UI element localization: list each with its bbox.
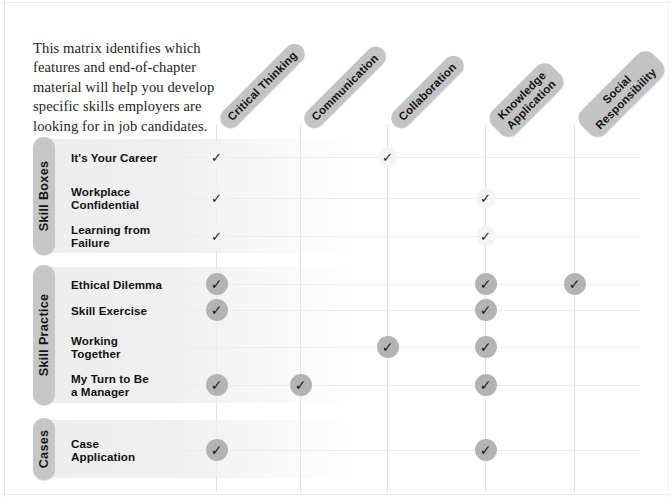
column-header-collaboration[interactable]: Collaboration [387,52,468,133]
section-pill-skill-boxes[interactable]: Skill Boxes [33,137,55,255]
checkmark-icon: ✓ [378,147,398,167]
section-pill-label: Skill Boxes [37,161,51,232]
row-gridline-working-together [163,347,640,348]
frame-top-border [0,2,672,3]
checkmark-icon: ✓ [476,188,496,208]
frame-left-border [4,0,5,497]
column-header-social-responsibility[interactable]: SocialResponsibility [574,47,669,142]
row-label-learning-from-failure[interactable]: Learning fromFailure [71,223,181,250]
row-label-line1: Ethical Dilemma [71,278,162,291]
section-pill-label: Cases [37,430,51,469]
checkmark-icon: ✓ [377,336,399,358]
checkmark-icon: ✓ [206,273,228,295]
row-label-line1: My Turn to Be [71,372,149,385]
frame-bottom-border [0,494,672,495]
row-label-line2: Together [71,347,121,360]
row-label-line2: Confidential [71,198,139,211]
column-header-communication[interactable]: Communication [300,43,390,133]
row-label-working-together[interactable]: WorkingTogether [71,334,181,361]
intro-paragraph: This matrix identifies which features an… [33,39,245,137]
row-label-line1: Learning from [71,223,150,236]
row-label-ethical-dilemma[interactable]: Ethical Dilemma [71,278,181,291]
frame-right-border [668,0,669,497]
row-label-line2: a Manager [71,385,129,398]
row-label-line1: Working [71,334,118,347]
checkmark-icon: ✓ [207,188,227,208]
skills-matrix: This matrix identifies which features an… [0,0,672,497]
row-label-case-application[interactable]: CaseApplication [71,437,181,464]
checkmark-icon: ✓ [476,226,496,246]
row-gridline-skill-exercise [163,310,640,311]
row-gridline-learning-from-failure [163,236,640,237]
checkmark-icon: ✓ [475,336,497,358]
section-pill-cases[interactable]: Cases [33,418,55,480]
row-label-line2: Application [71,450,135,463]
row-gridline-my-turn-to-be-manager [163,385,640,386]
checkmark-icon: ✓ [475,374,497,396]
column-header-label: Communication [309,52,380,123]
row-gridline-its-your-career [163,157,640,158]
section-pill-skill-practice[interactable]: Skill Practice [33,265,55,405]
row-label-line2: Failure [71,236,110,249]
row-label-line1: It's Your Career [71,151,157,164]
row-label-workplace-confidential[interactable]: WorkplaceConfidential [71,185,181,212]
column-header-label: Collaboration [396,61,458,123]
checkmark-icon: ✓ [475,439,497,461]
checkmark-icon: ✓ [206,299,228,321]
checkmark-icon: ✓ [475,273,497,295]
row-label-line1: Case [71,437,99,450]
row-label-skill-exercise[interactable]: Skill Exercise [71,304,181,317]
checkmark-icon: ✓ [206,439,228,461]
row-label-its-your-career[interactable]: It's Your Career [71,151,181,164]
checkmark-icon: ✓ [290,374,312,396]
checkmark-icon: ✓ [475,299,497,321]
checkmark-icon: ✓ [564,273,586,295]
row-gridline-case-application [163,450,640,451]
column-header-knowledge-application[interactable]: KnowledgeApplication [485,58,568,141]
row-label-line1: Workplace [71,185,130,198]
checkmark-icon: ✓ [206,374,228,396]
row-label-my-turn-to-be-manager[interactable]: My Turn to Bea Manager [71,372,181,399]
checkmark-icon: ✓ [207,226,227,246]
column-gridline-social-responsibility [574,124,575,492]
row-label-line1: Skill Exercise [71,304,147,317]
section-pill-label: Skill Practice [37,294,51,377]
checkmark-icon: ✓ [207,147,227,167]
column-gridline-collaboration [387,124,388,492]
row-gridline-workplace-confidential [163,198,640,199]
